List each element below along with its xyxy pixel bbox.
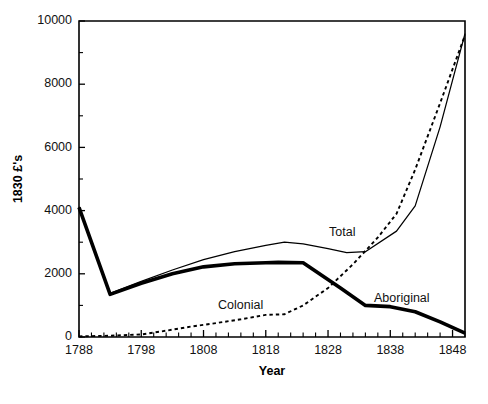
y-tick-label: 6000	[44, 140, 72, 154]
series-line-total	[79, 34, 465, 294]
x-tick-label: 1798	[127, 343, 155, 357]
y-tick-label: 2000	[44, 266, 72, 280]
y-tick-label: 8000	[44, 76, 72, 90]
series-label-total: Total	[329, 225, 355, 239]
x-tick-label: 1828	[314, 343, 342, 357]
line-chart: 0200040006000800010000 17881798180818181…	[0, 0, 488, 404]
x-axis-major-ticks	[79, 330, 453, 337]
series-label-aboriginal: Aboriginal	[374, 291, 430, 305]
x-tick-label: 1788	[65, 343, 93, 357]
y-tick-label: 10000	[37, 13, 72, 27]
y-tick-label: 0	[65, 329, 72, 343]
x-tick-label: 1848	[439, 343, 467, 357]
x-tick-label: 1808	[190, 343, 218, 357]
y-axis-tick-labels: 0200040006000800010000	[37, 13, 72, 343]
x-axis-tick-labels: 1788179818081818182818381848	[65, 343, 466, 357]
plot-frame	[79, 21, 465, 337]
y-axis-title: 1830 £'s	[11, 155, 25, 203]
x-axis-title: Year	[259, 364, 286, 378]
series-label-colonial: Colonial	[218, 298, 263, 312]
x-tick-label: 1838	[376, 343, 404, 357]
y-tick-label: 4000	[44, 203, 72, 217]
chart-figure: 0200040006000800010000 17881798180818181…	[0, 0, 488, 404]
x-tick-label: 1818	[252, 343, 280, 357]
